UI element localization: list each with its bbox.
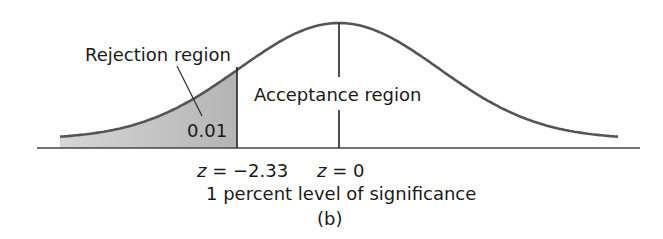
center-z-label: z = 0 xyxy=(317,162,364,180)
acceptance-region-label: Acceptance region xyxy=(254,86,421,104)
critical-z-label: z = −2.33 xyxy=(197,162,288,180)
critical-z-value: = −2.33 xyxy=(206,160,288,181)
rejection-region-label: Rejection region xyxy=(85,46,231,64)
panel-label: (b) xyxy=(317,210,342,228)
normal-distribution-figure: Rejection region Acceptance region 0.01 … xyxy=(0,0,663,239)
center-z-value: = 0 xyxy=(326,160,364,181)
figure-caption: 1 percent level of significance xyxy=(206,185,476,203)
tail-probability-value: 0.01 xyxy=(187,122,227,140)
